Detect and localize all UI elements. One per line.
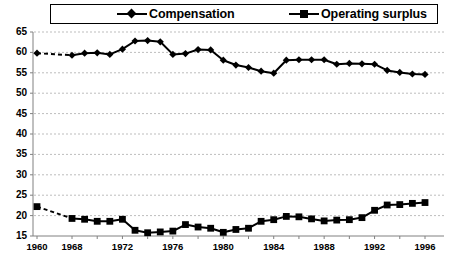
- diamond-marker-icon: [384, 67, 391, 74]
- square-marker-icon: [157, 229, 164, 236]
- square-marker-icon: [384, 202, 391, 209]
- square-marker-icon: [359, 214, 366, 221]
- diamond-marker-icon: [409, 70, 416, 77]
- diamond-marker-icon: [182, 50, 189, 57]
- square-marker-icon: [169, 228, 176, 235]
- diamond-marker-icon: [94, 49, 101, 56]
- diamond-marker-icon: [144, 37, 151, 44]
- plot-area: [0, 0, 451, 264]
- square-marker-icon: [94, 218, 101, 225]
- square-marker-icon: [144, 229, 151, 236]
- square-marker-icon: [321, 218, 328, 225]
- square-marker-icon: [220, 229, 227, 236]
- square-marker-icon: [308, 215, 315, 222]
- square-marker-icon: [296, 213, 303, 220]
- diamond-marker-icon: [295, 56, 302, 63]
- diamond-marker-icon: [421, 71, 428, 78]
- diamond-marker-icon: [371, 61, 378, 68]
- gridlines: [34, 32, 444, 216]
- diamond-marker-icon: [232, 61, 239, 68]
- square-marker-icon: [258, 218, 265, 225]
- diamond-marker-icon: [396, 69, 403, 76]
- square-marker-icon: [106, 218, 113, 225]
- square-marker-icon: [422, 199, 429, 206]
- diamond-marker-icon: [358, 60, 365, 67]
- line-chart: Compensation Operating surplus 656055504…: [0, 0, 451, 264]
- square-marker-icon: [409, 200, 416, 207]
- diamond-marker-icon: [346, 60, 353, 67]
- square-marker-icon: [270, 216, 277, 223]
- series-gap-connector: [37, 207, 72, 219]
- square-marker-icon: [69, 215, 76, 222]
- square-marker-icon: [81, 216, 88, 223]
- square-marker-icon: [195, 224, 202, 231]
- square-marker-icon: [207, 225, 214, 232]
- diamond-marker-icon: [321, 56, 328, 63]
- diamond-marker-icon: [333, 61, 340, 68]
- diamond-marker-icon: [258, 68, 265, 75]
- square-marker-icon: [132, 227, 139, 234]
- square-marker-icon: [333, 217, 340, 224]
- diamond-marker-icon: [308, 56, 315, 63]
- series-gap-connector: [37, 53, 72, 55]
- diamond-marker-icon: [81, 50, 88, 57]
- square-marker-icon: [245, 225, 252, 232]
- diamond-marker-icon: [245, 64, 252, 71]
- square-marker-icon: [283, 213, 290, 220]
- square-marker-icon: [34, 203, 41, 210]
- square-marker-icon: [371, 207, 378, 214]
- square-marker-icon: [119, 216, 126, 223]
- square-marker-icon: [396, 201, 403, 208]
- square-marker-icon: [182, 221, 189, 228]
- diamond-marker-icon: [33, 50, 40, 57]
- square-marker-icon: [232, 226, 239, 233]
- data-series-layer: [33, 37, 428, 236]
- square-marker-icon: [346, 216, 353, 223]
